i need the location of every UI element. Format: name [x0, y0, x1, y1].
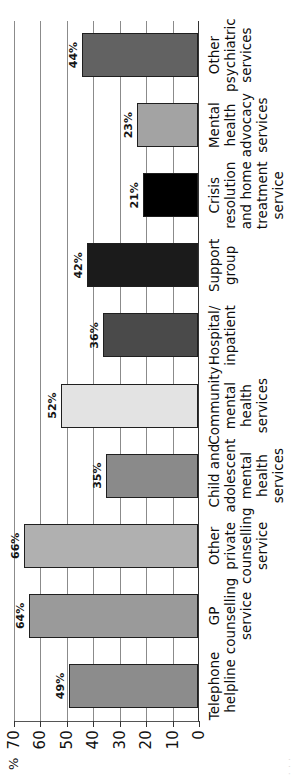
bar-slot: 49%Telephone helpline — [14, 651, 198, 721]
bar-value-label: 42% — [72, 252, 85, 278]
scan-artifact-text: · · · — [284, 758, 293, 776]
bar-value-label: 64% — [14, 603, 27, 629]
bar-slot: 35%Child and adolescent mental health se… — [14, 441, 198, 511]
bar-slot: 44%Other psychiatric services — [14, 20, 198, 90]
bar[interactable]: 52% — [61, 384, 198, 428]
y-axis-tick-label: 40 — [84, 730, 102, 750]
bar[interactable]: 35% — [106, 454, 199, 498]
y-axis-tick-label: 60 — [31, 730, 49, 750]
y-axis-tick — [40, 721, 41, 727]
bar-slot: 42%Support group — [14, 230, 198, 300]
category-label: Other psychiatric services — [207, 12, 255, 98]
y-axis-tick — [14, 721, 15, 727]
rotated-figure-wrapper: % 010203040506070 49%Telephone helpline6… — [0, 0, 297, 784]
y-axis-tick — [146, 721, 147, 727]
y-axis-tick — [93, 721, 94, 727]
y-axis-tick — [199, 721, 200, 727]
y-axis-tick-label: 10 — [164, 730, 182, 750]
bar[interactable]: 23% — [137, 103, 198, 147]
bar[interactable]: 36% — [103, 313, 198, 357]
bar-value-label: 52% — [46, 392, 59, 418]
bar-chart-figure: % 010203040506070 49%Telephone helpline6… — [0, 0, 297, 784]
bar-slot: 36%Hospital/ inpatient — [14, 300, 198, 370]
y-axis-tick-label: 30 — [111, 730, 129, 750]
bar-slot: 66%Other private counselling service — [14, 511, 198, 581]
bar-slot: 21%Crisis resolution and home treatment … — [14, 160, 198, 230]
y-axis-unit-label: % — [6, 758, 21, 770]
bar-value-label: 23% — [122, 112, 135, 138]
bar-slot: 64%GP counselling service — [14, 581, 198, 651]
y-axis-tick — [67, 721, 68, 727]
y-axis-tick-label: 0 — [190, 730, 208, 740]
y-axis-tick-label: 70 — [5, 730, 23, 750]
y-axis-tick — [173, 721, 174, 727]
bar[interactable]: 21% — [143, 173, 199, 217]
bar-value-label: 35% — [91, 462, 104, 488]
bar-value-label: 49% — [54, 673, 67, 699]
bar[interactable]: 49% — [69, 664, 199, 708]
bar[interactable]: 66% — [24, 524, 198, 568]
y-axis-tick-label: 50 — [58, 730, 76, 750]
bar-value-label: 21% — [128, 182, 141, 208]
bar-value-label: 66% — [9, 533, 22, 559]
bar-value-label: 36% — [88, 322, 101, 348]
bar[interactable]: 44% — [82, 33, 198, 77]
plot-area: 010203040506070 49%Telephone helpline64%… — [14, 21, 199, 722]
bar-slot: 52%Community mental health services — [14, 371, 198, 441]
bar-value-label: 44% — [67, 42, 80, 68]
y-axis-tick-label: 20 — [137, 730, 155, 750]
bar[interactable]: 64% — [29, 594, 198, 638]
bar[interactable]: 42% — [87, 243, 198, 287]
y-axis-tick — [120, 721, 121, 727]
bar-slot: 23%Mental health advocacy services — [14, 90, 198, 160]
